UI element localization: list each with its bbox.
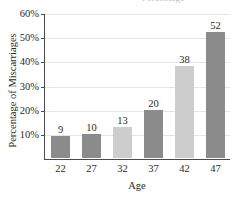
x-tick-label: 27 (86, 163, 97, 174)
x-tick-label: 47 (210, 163, 221, 174)
bar-value-label: 52 (210, 20, 221, 31)
cutoff-title-text: Percentage (142, 0, 200, 3)
bar-value-label: 10 (86, 122, 97, 133)
x-axis-title: Age (44, 180, 230, 191)
gridline (45, 111, 230, 112)
y-tick-label: 20% (20, 105, 39, 116)
gridline (45, 135, 230, 136)
x-tick-label: 32 (117, 163, 128, 174)
y-tick-label: 60% (20, 9, 39, 20)
bar: 52 (206, 32, 225, 158)
bar: 38 (175, 66, 194, 158)
y-tick-mark (41, 62, 45, 63)
bar: 20 (144, 110, 163, 158)
y-tick-mark (41, 38, 45, 39)
y-tick-mark (41, 87, 45, 88)
bar-value-label: 13 (117, 115, 128, 126)
bar-value-label: 9 (58, 124, 63, 135)
y-axis-title: Percentage of Miscarriages (7, 16, 18, 166)
bar: 10 (82, 134, 101, 158)
gridline (45, 14, 230, 15)
bar: 13 (113, 127, 132, 158)
bar-value-label: 20 (148, 98, 159, 109)
plot-area: 10%20%30%40%50%60% 91013203852 222732374… (44, 14, 230, 159)
y-tick-mark (41, 14, 45, 15)
y-tick-mark (41, 111, 45, 112)
bar-chart-figure: Percentage Percentage of Miscarriages 10… (0, 0, 235, 197)
y-tick-mark (41, 135, 45, 136)
x-axis-spine (44, 159, 230, 160)
y-tick-label: 10% (20, 130, 39, 141)
bar: 9 (51, 136, 70, 158)
x-tick-label: 22 (55, 163, 66, 174)
y-tick-label: 30% (20, 81, 39, 92)
gridline (45, 38, 230, 39)
y-tick-label: 40% (20, 57, 39, 68)
gridline (45, 87, 230, 88)
cutoff-title-sliver: Percentage (142, 0, 200, 3)
x-tick-label: 42 (179, 163, 190, 174)
x-tick-label: 37 (148, 163, 159, 174)
y-tick-label: 50% (20, 33, 39, 44)
bar-value-label: 38 (179, 54, 190, 65)
gridline (45, 62, 230, 63)
